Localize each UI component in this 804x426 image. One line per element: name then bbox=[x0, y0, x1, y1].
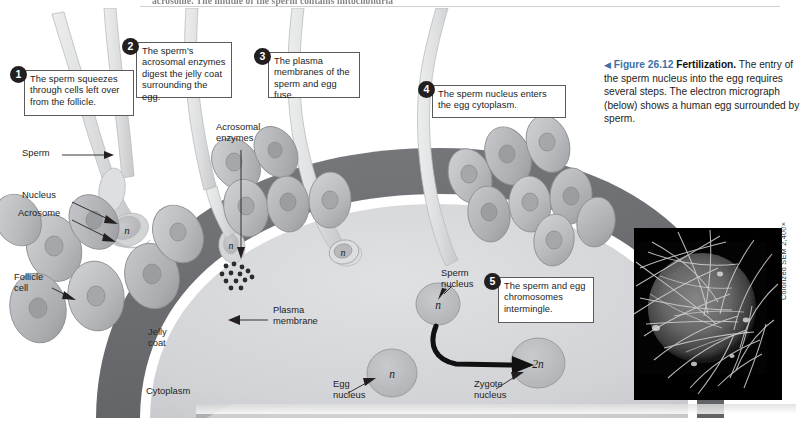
ploidy-sperm-3: n bbox=[229, 240, 234, 251]
label-jelly-coat: Jelly coat bbox=[148, 327, 167, 349]
callout-step-1: The sperm squeezes through cells left ov… bbox=[24, 70, 134, 116]
callout-step-5: The sperm and egg chromosomes intermingl… bbox=[498, 277, 594, 323]
follicle-nucleus bbox=[546, 231, 562, 249]
step-number-2: 2 bbox=[122, 38, 139, 55]
follicle-nucleus bbox=[461, 165, 477, 183]
label-nucleus: Nucleus bbox=[22, 190, 56, 201]
follicle-nucleus bbox=[226, 153, 242, 171]
callout-step-4: The sperm nucleus enters the egg cytopla… bbox=[432, 85, 566, 118]
label-cytoplasm: Cytoplasm bbox=[146, 386, 190, 397]
follicle-nucleus bbox=[87, 286, 105, 306]
follicle-nucleus bbox=[481, 203, 497, 221]
follicle-nucleus bbox=[86, 211, 102, 229]
page-rule bbox=[140, 6, 780, 7]
ploidy-zygote-nucleus: 2n bbox=[532, 358, 544, 370]
figure-container: acrosome. The middle of the sperm contai… bbox=[0, 0, 804, 426]
callout-step-2: The sperm's acrosomal enzymes digest the… bbox=[136, 42, 232, 98]
label-acrosome: Acrosome bbox=[18, 208, 60, 219]
callout-step-3: The plasma membranes of the sperm and eg… bbox=[268, 52, 360, 98]
step-number-1: 1 bbox=[10, 66, 27, 83]
label-acrosomal-enzymes: Acrosomal enzymes bbox=[216, 122, 260, 144]
ploidy-fused: n bbox=[341, 247, 346, 258]
label-sperm: Sperm bbox=[22, 148, 50, 159]
follicle-nucleus bbox=[45, 236, 63, 256]
follicle-nucleus bbox=[29, 298, 47, 318]
label-sperm-nucleus: Sperm nucleus bbox=[441, 268, 473, 290]
step-number-4: 4 bbox=[418, 81, 435, 98]
follicle-nucleus bbox=[238, 197, 254, 215]
ploidy-sperm-head: n bbox=[124, 224, 130, 236]
caption-figure-number: Figure 26.12 bbox=[614, 59, 673, 70]
step-number-5: 5 bbox=[484, 273, 501, 290]
electron-micrograph bbox=[634, 228, 782, 400]
label-zygote-nucleus: Zygote nucleus bbox=[474, 379, 506, 401]
follicle-nucleus bbox=[268, 142, 282, 158]
micrograph-credit: Colorized SEM 2,400× bbox=[779, 222, 788, 300]
micrograph-image bbox=[634, 228, 782, 400]
follicle-nucleus bbox=[280, 193, 296, 211]
follicle-nucleus bbox=[143, 264, 161, 284]
label-plasma-membrane: Plasma membrane bbox=[273, 305, 318, 327]
ploidy-sperm-nucleus: n bbox=[435, 299, 441, 311]
follicle-nucleus bbox=[170, 223, 186, 241]
sperm-tail-3 bbox=[185, 8, 216, 190]
follicle-nucleus bbox=[563, 187, 579, 205]
caption-arrow-icon: ◀ bbox=[604, 60, 611, 70]
step-number-3: 3 bbox=[254, 48, 271, 65]
ploidy-egg-nucleus: n bbox=[389, 368, 395, 380]
follicle-nucleus bbox=[499, 145, 515, 163]
label-egg-nucleus: Egg nucleus bbox=[333, 379, 365, 401]
follicle-nucleus bbox=[322, 191, 338, 209]
label-follicle-cell: Follicle cell bbox=[14, 272, 43, 294]
caption-title: Fertilization. bbox=[676, 59, 736, 70]
follicle-nucleus bbox=[539, 133, 555, 151]
follicle-nucleus bbox=[522, 193, 538, 211]
figure-caption: ◀ Figure 26.12 Fertilization. The entry … bbox=[604, 58, 800, 125]
page-bottom-gradient bbox=[196, 404, 796, 414]
